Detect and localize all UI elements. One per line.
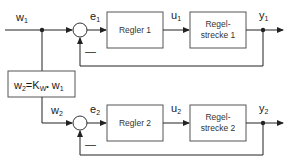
w2-label: w2	[50, 104, 63, 117]
summing-junction-1	[73, 23, 87, 37]
control-block-diagram: w1 — e1 Regler 1 u1 Regel- strecke 1 y1 …	[0, 0, 289, 166]
plant-2-label-line1: Regel-	[205, 112, 230, 122]
controller-2-label: Regler 2	[119, 118, 151, 128]
u2-label: u2	[171, 102, 181, 115]
gain-equation: w2=KW• w1	[13, 79, 64, 92]
reference-gain: w2=KW• w1 w2	[8, 30, 75, 123]
y2-label: y2	[259, 102, 269, 115]
plant-1-label-line1: Regel-	[205, 19, 230, 29]
plant-2-label-line2: strecke 2	[201, 123, 236, 133]
e1-label: e1	[90, 10, 100, 23]
w1-label: w1	[15, 11, 28, 24]
loop-2: — e2 Regler 2 u2 Regel- strecke 2 y2	[73, 102, 283, 155]
summing-junction-2	[73, 116, 87, 130]
feedback-minus-sign-1: —	[85, 45, 96, 57]
u1-label: u1	[171, 9, 181, 22]
feedback-minus-sign-2: —	[85, 138, 96, 150]
e2-label: e2	[90, 103, 100, 116]
controller-1-label: Regler 1	[119, 25, 151, 35]
y1-label: y1	[259, 9, 269, 22]
plant-1-label-line2: strecke 1	[201, 30, 236, 40]
loop-1: w1 — e1 Regler 1 u1 Regel- strecke 1 y1	[5, 9, 283, 66]
